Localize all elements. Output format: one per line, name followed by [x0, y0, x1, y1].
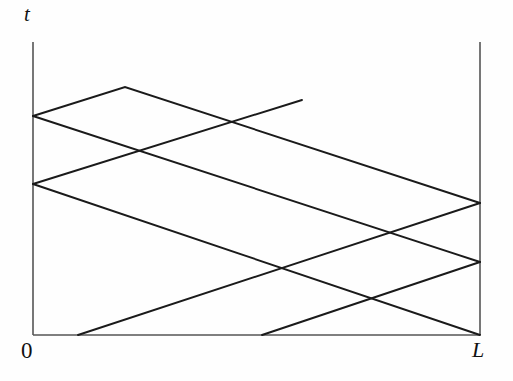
- characteristic-lines: [33, 87, 480, 335]
- characteristic-line-1: [33, 87, 480, 203]
- origin-label: 0: [21, 339, 33, 362]
- characteristic-diagram: t 0 L: [0, 0, 513, 381]
- characteristic-line-3: [33, 100, 302, 184]
- characteristic-line-4: [33, 184, 480, 335]
- t-axis-label: t: [24, 4, 30, 25]
- plot-canvas: [0, 0, 513, 381]
- length-label: L: [472, 339, 484, 361]
- characteristic-line-2: [33, 116, 480, 262]
